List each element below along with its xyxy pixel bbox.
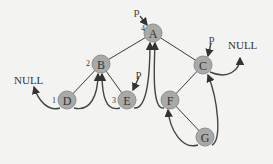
order-label-E: 3 bbox=[112, 96, 116, 105]
svg-text:E: E bbox=[123, 94, 130, 108]
svg-text:C: C bbox=[199, 59, 207, 73]
pointer-label-C: p bbox=[209, 32, 215, 44]
svg-text:F: F bbox=[167, 94, 174, 108]
node-A: A bbox=[144, 24, 162, 42]
threaded-tree-diagram: A B C D E F G 4 2 1 3 p p p NULL NULL bbox=[0, 0, 273, 164]
pointer-label-A: p bbox=[134, 5, 140, 17]
order-label-B: 2 bbox=[86, 59, 90, 68]
node-E: E bbox=[118, 91, 136, 109]
svg-text:B: B bbox=[97, 58, 105, 72]
null-label-left: NULL bbox=[14, 74, 44, 86]
order-label-A: 4 bbox=[141, 24, 145, 33]
null-label-right: NULL bbox=[228, 39, 258, 51]
node-D: D bbox=[58, 91, 76, 109]
node-C: C bbox=[194, 56, 212, 74]
pointer-label-E: p bbox=[136, 67, 142, 79]
svg-text:G: G bbox=[201, 131, 210, 145]
node-F: F bbox=[161, 91, 179, 109]
order-label-D: 1 bbox=[52, 96, 56, 105]
node-B: B bbox=[92, 55, 110, 73]
svg-text:D: D bbox=[63, 94, 72, 108]
node-G: G bbox=[196, 128, 214, 146]
svg-text:A: A bbox=[149, 27, 158, 41]
